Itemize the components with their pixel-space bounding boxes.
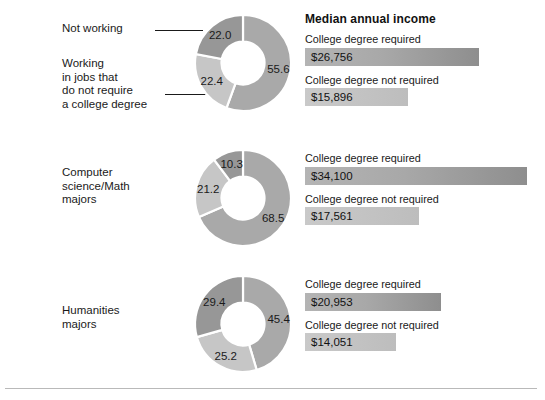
bar-caption: College degree not required bbox=[305, 319, 441, 331]
donut-svg-all-graduates: 55.622.422.0 bbox=[192, 11, 294, 115]
bar-value-label: $17,561 bbox=[311, 210, 353, 222]
chart-row-cs-math: Computer science/Math majors 68.521.210.… bbox=[0, 140, 545, 265]
donut-slice-label: 22.4 bbox=[201, 75, 224, 87]
bar-degree-required: $34,100 bbox=[305, 167, 527, 185]
bar-block: College degree not required $17,561 bbox=[305, 193, 527, 226]
donut-svg-cs-math: 68.521.210.3 bbox=[192, 146, 294, 250]
bar-caption: College degree not required bbox=[305, 74, 479, 86]
chart-row-all-graduates: Not working Working in jobs that do not … bbox=[0, 0, 545, 140]
donut-slice-label: 29.4 bbox=[203, 296, 226, 308]
bar-caption: College degree required bbox=[305, 278, 441, 290]
bar-degree-required: $26,756 bbox=[305, 48, 479, 66]
bar-value-label: $14,051 bbox=[311, 336, 353, 348]
bar-block: College degree required $20,953 bbox=[305, 278, 441, 311]
bar-value-label: $34,100 bbox=[311, 170, 353, 182]
bar-value-label: $15,896 bbox=[311, 91, 353, 103]
bar-group-humanities: College degree required $20,953 College … bbox=[305, 278, 441, 359]
bars-title: Median annual income bbox=[305, 12, 479, 26]
bar-degree-not-required: $15,896 bbox=[305, 88, 408, 106]
group-label-humanities: Humanities majors bbox=[62, 304, 120, 331]
bar-block: College degree required $26,756 bbox=[305, 33, 479, 66]
group-label-cs-math: Computer science/Math majors bbox=[62, 166, 130, 207]
bar-caption: College degree required bbox=[305, 152, 527, 164]
donut-slice-label: 68.5 bbox=[262, 212, 284, 224]
donut-chart-humanities: 45.425.229.4 bbox=[192, 272, 294, 376]
bar-value-label: $26,756 bbox=[311, 51, 353, 63]
donut-chart-cs-math: 68.521.210.3 bbox=[192, 146, 294, 250]
bar-group-cs-math: College degree required $34,100 College … bbox=[305, 152, 527, 233]
bar-block: College degree not required $14,051 bbox=[305, 319, 441, 352]
donut-svg-humanities: 45.425.229.4 bbox=[192, 272, 294, 376]
donut-slice-label: 22.0 bbox=[209, 29, 231, 41]
bar-caption: College degree not required bbox=[305, 193, 527, 205]
bar-block: College degree not required $15,896 bbox=[305, 74, 479, 107]
donut-slice-label: 45.4 bbox=[267, 313, 290, 325]
callout-working-non-degree: Working in jobs that do not require a co… bbox=[62, 57, 147, 111]
bar-degree-not-required: $17,561 bbox=[305, 207, 419, 225]
donut-slice-label: 25.2 bbox=[215, 350, 237, 362]
bar-caption: College degree required bbox=[305, 33, 479, 45]
donut-slice-label: 10.3 bbox=[220, 158, 242, 170]
bar-group-all-graduates: Median annual income College degree requ… bbox=[305, 12, 479, 114]
bottom-divider bbox=[5, 388, 537, 389]
donut-chart-all-graduates: 55.622.422.0 bbox=[192, 11, 294, 115]
bar-value-label: $20,953 bbox=[311, 296, 353, 308]
callout-not-working: Not working bbox=[62, 22, 123, 36]
bar-degree-required: $20,953 bbox=[305, 293, 441, 311]
bar-block: College degree required $34,100 bbox=[305, 152, 527, 185]
bar-degree-not-required: $14,051 bbox=[305, 333, 396, 351]
chart-row-humanities: Humanities majors 45.425.229.4 College d… bbox=[0, 265, 545, 390]
donut-slice-label: 55.6 bbox=[267, 63, 289, 75]
donut-slice-label: 21.2 bbox=[197, 183, 219, 195]
infographic-root: Not working Working in jobs that do not … bbox=[0, 0, 545, 400]
